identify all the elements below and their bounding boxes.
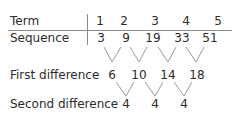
first-difference-value: 14	[160, 68, 175, 82]
term-value: 5	[214, 14, 222, 28]
second-difference-connectors	[116, 82, 192, 96]
second-difference-value: 4	[122, 97, 130, 111]
first-difference-value: 6	[108, 68, 116, 82]
sequence-value: 19	[145, 31, 160, 45]
term-value: 2	[120, 14, 128, 28]
first-difference-value: 18	[189, 68, 204, 82]
term-value: 1	[96, 14, 104, 28]
second-difference-label: Second difference	[10, 97, 118, 111]
sequence-label: Sequence	[10, 31, 69, 45]
sequence-value: 3	[97, 31, 105, 45]
first-difference-value: 10	[131, 68, 146, 82]
second-difference-value: 4	[180, 97, 188, 111]
sequence-value: 9	[122, 31, 130, 45]
first-difference-label: First difference	[10, 68, 99, 82]
second-difference-value: 4	[151, 97, 159, 111]
term-label: Term	[10, 14, 39, 28]
term-value: 3	[151, 14, 159, 28]
term-value: 4	[182, 14, 190, 28]
sequence-value: 51	[202, 31, 217, 45]
sequence-value: 33	[174, 31, 189, 45]
first-difference-connectors	[104, 47, 204, 62]
